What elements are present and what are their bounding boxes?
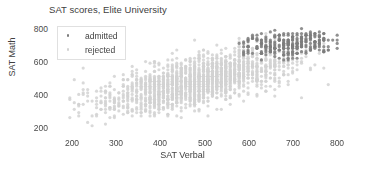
legend-marker-admitted-icon	[63, 34, 73, 37]
x-tick-800: 800	[322, 138, 352, 148]
legend-item-admitted: admitted	[63, 29, 118, 42]
chart-figure: SAT scores, Elite University SAT Math 80…	[0, 0, 365, 183]
legend-item-rejected: rejected	[63, 43, 118, 56]
legend-label-rejected: rejected	[85, 45, 115, 55]
x-tick-400: 400	[145, 138, 175, 148]
x-tick-200: 200	[57, 138, 87, 148]
legend-label-admitted: admitted	[85, 31, 118, 41]
chart-title: SAT scores, Elite University	[49, 4, 167, 15]
x-tick-700: 700	[278, 138, 308, 148]
legend-marker-rejected-icon	[63, 48, 73, 51]
y-axis-label: SAT Math	[7, 27, 17, 87]
y-tick-400: 400	[22, 90, 48, 100]
y-tick-800: 800	[22, 24, 48, 34]
y-tick-200: 200	[22, 123, 48, 133]
x-tick-600: 600	[234, 138, 264, 148]
y-tick-600: 600	[22, 57, 48, 67]
x-tick-300: 300	[101, 138, 131, 148]
x-tick-500: 500	[190, 138, 220, 148]
x-axis-label: SAT Verbal	[0, 150, 365, 160]
chart-legend: admitted rejected	[57, 26, 126, 60]
